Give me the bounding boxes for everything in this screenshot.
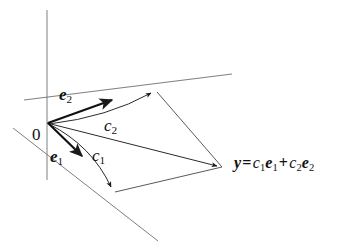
e2-subscript: 2	[67, 93, 73, 105]
term1-coefficient: c	[253, 154, 260, 171]
vector-e2-arrow	[48, 100, 112, 123]
vector-decomposition-figure: 0 e2 e1 c2 c1 y=c1e1+c2e2	[0, 0, 360, 247]
term2-vector: e	[302, 154, 309, 171]
e2-symbol: e	[59, 85, 67, 104]
basis-vector-e2-label: e2	[59, 86, 72, 105]
parallelogram-side-lower	[115, 167, 222, 192]
parallelogram-side-upper	[157, 92, 222, 167]
c2-symbol: c	[104, 116, 112, 135]
e1-subscript: 1	[58, 155, 64, 167]
equation-label: y=c1e1+c2e2	[234, 155, 314, 174]
e1-symbol: e	[50, 147, 58, 166]
equals-sign: =	[241, 154, 252, 171]
e2-span-line	[24, 74, 232, 100]
origin-label: 0	[32, 126, 41, 143]
plus-sign: +	[278, 154, 289, 171]
c1-subscript: 1	[100, 154, 106, 166]
diagram-canvas	[0, 0, 360, 247]
basis-vector-e1-label: e1	[50, 148, 63, 167]
vector-y-arrow	[47, 123, 217, 166]
coefficient-c2-label: c2	[104, 117, 117, 136]
term2-vector-subscript: 2	[309, 162, 314, 173]
e1-span-line	[13, 128, 158, 241]
c2-subscript: 2	[112, 124, 118, 136]
term1-vector: e	[265, 154, 272, 171]
c1-symbol: c	[92, 146, 100, 165]
coefficient-c1-label: c1	[92, 147, 105, 166]
